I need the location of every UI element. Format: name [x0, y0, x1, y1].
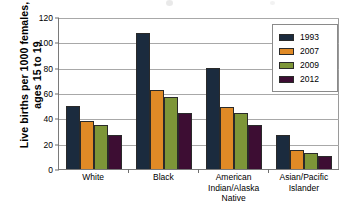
legend-swatch: [279, 76, 294, 83]
bar[interactable]: [318, 156, 332, 169]
x-axis-label-line: Indian/Alaska: [199, 183, 269, 194]
bar-group: [129, 18, 199, 169]
x-axis-label-line: American: [199, 172, 269, 183]
legend-swatch: [279, 48, 294, 55]
bar[interactable]: [94, 125, 108, 169]
x-axis-label-line: Black: [128, 172, 198, 183]
scan-speck: [166, 0, 173, 6]
bar[interactable]: [178, 113, 192, 169]
bar-chart-figure: Live births per 1000 females, ages 15 to…: [0, 0, 347, 215]
legend-label: 2009: [300, 60, 319, 70]
scan-speck: [270, 1, 275, 5]
x-axis-label: Black: [128, 172, 198, 204]
bar[interactable]: [150, 90, 164, 169]
bar[interactable]: [234, 113, 248, 169]
scan-artifact: [120, 0, 230, 7]
x-axis-label-line: Native: [199, 193, 269, 204]
bar[interactable]: [304, 153, 318, 169]
bar[interactable]: [276, 135, 290, 169]
legend-item[interactable]: 2009: [279, 58, 332, 72]
bar[interactable]: [136, 33, 150, 169]
x-axis-label-line: White: [58, 172, 128, 183]
x-axis-labels: WhiteBlackAmericanIndian/AlaskaNativeAsi…: [58, 172, 339, 204]
y-axis-title: Live births per 1000 females, ages 15 to…: [18, 0, 44, 155]
y-tick-label: 120: [39, 13, 59, 23]
legend-item[interactable]: 1993: [279, 30, 332, 44]
bar[interactable]: [220, 107, 234, 169]
x-axis-label: Asian/PacificIslander: [269, 172, 339, 204]
x-axis-label: AmericanIndian/AlaskaNative: [199, 172, 269, 204]
bar-group: [199, 18, 269, 169]
bar[interactable]: [80, 121, 94, 169]
bar[interactable]: [290, 150, 304, 169]
bar[interactable]: [164, 97, 178, 169]
legend: 1993200720092012: [272, 24, 338, 92]
x-axis-label-line: Asian/Pacific: [269, 172, 339, 183]
legend-label: 2007: [300, 46, 319, 56]
y-tick-label: 40: [44, 114, 59, 124]
legend-label: 1993: [300, 32, 319, 42]
y-tick-label: 80: [44, 64, 59, 74]
legend-swatch: [279, 34, 294, 41]
legend-label: 2012: [300, 74, 319, 84]
bar[interactable]: [248, 125, 262, 169]
legend-item[interactable]: 2007: [279, 44, 332, 58]
bar[interactable]: [108, 135, 122, 169]
y-tick-label: 100: [39, 38, 59, 48]
y-tick-label: 60: [44, 89, 59, 99]
y-tick-label: 20: [44, 140, 59, 150]
bar-group: [59, 18, 129, 169]
x-axis-label-line: Islander: [269, 183, 339, 194]
legend-swatch: [279, 62, 294, 69]
x-axis-label: White: [58, 172, 128, 204]
bar[interactable]: [206, 68, 220, 169]
bar[interactable]: [66, 106, 80, 169]
legend-item[interactable]: 2012: [279, 72, 332, 86]
